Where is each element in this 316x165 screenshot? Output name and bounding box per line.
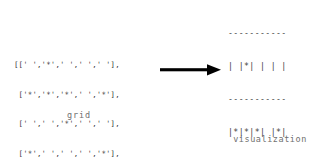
grid-code-line: ['*',' ',' ',' ','*'],: [14, 149, 120, 159]
visualization-panel: ----------- | |*| | | | ----------- |*|*…: [224, 0, 316, 165]
grid-code-line: ['*','*','*',' ','*'],: [14, 90, 120, 100]
viz-separator-line: -----------: [228, 28, 287, 39]
grid-code-line: [[' ','*',' ',' ',' '],: [14, 60, 120, 70]
transform-arrow: [158, 62, 224, 78]
grid-panel: [[' ','*',' ',' ',' '], ['*','*','*',' '…: [0, 0, 158, 165]
visualization-caption-label: visualization: [224, 134, 316, 144]
viz-separator-line: -----------: [228, 160, 287, 165]
grid-code-block: [[' ','*',' ',' ',' '], ['*','*','*',' '…: [14, 40, 120, 165]
viz-row-line: | |*| | | |: [228, 61, 287, 72]
arrow-right-icon: [158, 62, 224, 78]
grid-caption-label: grid: [0, 110, 158, 120]
grid-code-line: [' ',' ','*',' ',' '],: [14, 119, 120, 129]
viz-separator-line: -----------: [228, 94, 287, 105]
